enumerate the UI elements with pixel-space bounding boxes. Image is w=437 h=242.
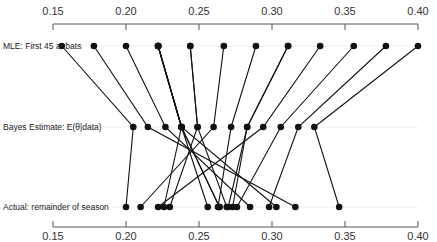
row-gridlines [53,46,418,207]
point-actual [273,204,280,211]
point-bayes [311,124,318,131]
point-actual [161,204,168,211]
point-bayes [260,124,267,131]
tick-label: 0.35 [334,230,355,242]
point-mle [350,43,357,50]
point-bayes [130,124,137,131]
tick-label: 0.30 [261,230,282,242]
point-mle [253,43,260,50]
tick-label: 0.30 [261,5,282,17]
tick-label: 0.20 [115,230,136,242]
point-mle [415,43,422,50]
tick-label: 0.35 [334,5,355,17]
point-actual [137,204,144,211]
point-mle [123,43,130,50]
tick-label: 0.15 [42,5,63,17]
point-mle [383,43,390,50]
tick-label: 0.15 [42,230,63,242]
point-mle [317,43,324,50]
point-mle [155,43,162,50]
bottom-axis: 0.150.200.250.300.350.40 [42,221,428,242]
row-label-mle: MLE: First 45 at bats [3,41,81,51]
shrinkage-chart: 0.150.200.250.300.350.40 0.150.200.250.3… [0,0,437,242]
point-mle [187,43,194,50]
point-bayes [210,124,217,131]
point-bayes [162,124,169,131]
row-label-bayes: Bayes Estimate: E(θ|data) [3,122,102,132]
tick-label: 0.40 [407,230,428,242]
point-mle [91,43,98,50]
point-actual [204,204,211,211]
point-actual [167,204,174,211]
point-bayes [194,124,201,131]
top-axis: 0.150.200.250.300.350.40 [42,5,428,30]
point-bayes [244,124,251,131]
tick-label: 0.20 [115,5,136,17]
point-actual [155,204,162,211]
point-bayes [295,124,302,131]
row-label-actual: Actual: remainder of season [3,202,109,212]
point-bayes [178,124,185,131]
point-actual [216,204,223,211]
point-bayes [277,124,284,131]
point-actual [123,204,130,211]
point-bayes [145,124,152,131]
tick-label: 0.25 [188,230,209,242]
point-actual [223,204,230,211]
point-actual [266,204,273,211]
row-labels: MLE: First 45 at bats Bayes Estimate: E(… [3,41,109,212]
tick-label: 0.25 [188,5,209,17]
point-bayes [228,124,235,131]
point-actual [336,204,343,211]
point-actual [292,204,299,211]
tick-label: 0.40 [407,5,428,17]
point-mle [285,43,292,50]
point-mle [221,43,228,50]
point-actual [247,204,254,211]
